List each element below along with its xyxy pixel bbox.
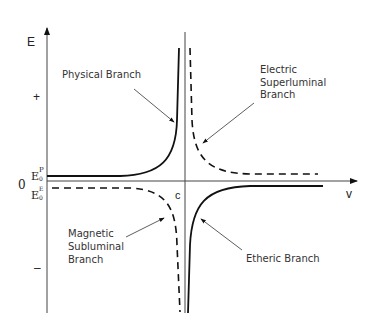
electric-pointer (203, 103, 254, 143)
physical-pointer (134, 89, 174, 122)
svg-text:0: 0 (39, 194, 43, 201)
e0e-label: E E 0 (31, 185, 43, 202)
etheric-branch-curve (188, 186, 323, 313)
minus-label: – (34, 261, 41, 275)
physical-branch-label: Physical Branch (62, 69, 141, 80)
y-axis-label: E (27, 35, 35, 49)
origin-label: 0 (18, 178, 26, 192)
svg-text:E: E (31, 189, 39, 202)
magnetic-pointer (126, 218, 164, 237)
etheric-branch-label: Etheric Branch (246, 253, 320, 264)
svg-text:P: P (39, 166, 44, 174)
c-label: c (175, 189, 181, 201)
svg-text:E: E (31, 170, 39, 183)
svg-text:Superluminal: Superluminal (260, 77, 326, 88)
e0p-label: E P 0 (31, 166, 44, 183)
electric-branch-curve (190, 48, 318, 174)
svg-text:Magnetic: Magnetic (68, 228, 114, 239)
svg-text:Branch: Branch (260, 89, 295, 100)
svg-text:E: E (39, 185, 43, 192)
electric-branch-label: Electric Superluminal Branch (260, 64, 326, 100)
x-axis-label: v (346, 187, 352, 201)
plus-label: + (33, 90, 40, 104)
magnetic-branch-label: Magnetic Subluminal Branch (68, 228, 124, 265)
physical-branch-curve (47, 48, 179, 176)
svg-text:0: 0 (39, 175, 43, 182)
svg-text:Electric: Electric (260, 64, 297, 75)
etheric-pointer (201, 219, 242, 250)
svg-text:Subluminal: Subluminal (68, 241, 124, 252)
svg-text:Branch: Branch (68, 254, 103, 265)
energy-velocity-diagram: E v + – c 0 E P 0 E E 0 Physical Branch … (0, 0, 373, 332)
